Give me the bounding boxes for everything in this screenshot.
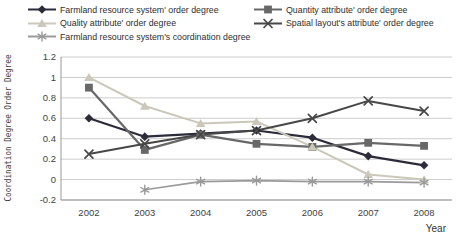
x-tick-label: 2002 — [78, 207, 99, 218]
x-tick-label: 2007 — [358, 207, 379, 218]
chart-legend: Farmland resource system' order degree Q… — [27, 3, 434, 44]
legend-item-farmland-order: Farmland resource system' order degree — [27, 3, 253, 17]
x-tick-label: 2005 — [246, 207, 267, 218]
y-tick-label: 0 — [51, 174, 56, 185]
x-series-marker-icon — [253, 18, 283, 29]
legend-item-quality-order: Quality attribute' order degree — [27, 17, 253, 31]
legend-item-coordination: Farmland resource system's coordination … — [27, 30, 253, 44]
x-tick-label: 2008 — [414, 207, 435, 218]
legend-item-quantity-order: Quantity attribute' order degree — [253, 3, 434, 17]
y-tick-label: 0.8 — [43, 92, 56, 103]
x-axis-title: Year — [426, 223, 447, 234]
legend-label: Quantity attribute' order degree — [286, 5, 408, 15]
y-tick-label: 0.6 — [43, 112, 56, 123]
square-series-marker-icon — [253, 4, 283, 15]
x-tick-label: 2006 — [302, 207, 323, 218]
y-tick-label: -0.2 — [40, 194, 56, 205]
legend-item-spatial-order: Spatial layout's attribute' order degree — [253, 17, 434, 31]
diamond-series-marker-icon — [27, 4, 57, 15]
asterisk-series-marker-icon — [27, 31, 57, 42]
legend-label: Farmland resource system' order degree — [60, 5, 219, 15]
x-tick-label: 2004 — [190, 207, 211, 218]
y-tick-label: 1 — [51, 72, 56, 83]
triangle-series-marker-icon — [27, 18, 57, 29]
y-axis-title: Coordination Degree Order Degree — [3, 54, 13, 201]
y-tick-label: 0.4 — [43, 133, 56, 144]
chart-plot-group: -0.200.20.40.60.811.22002200320042005200… — [40, 51, 452, 218]
y-tick-label: 1.2 — [43, 51, 56, 62]
legend-label: Spatial layout's attribute' order degree — [286, 18, 434, 28]
legend-label: Quality attribute' order degree — [60, 18, 176, 28]
y-tick-label: 0.2 — [43, 153, 56, 164]
legend-label: Farmland resource system's coordination … — [60, 32, 250, 42]
x-tick-label: 2003 — [134, 207, 155, 218]
